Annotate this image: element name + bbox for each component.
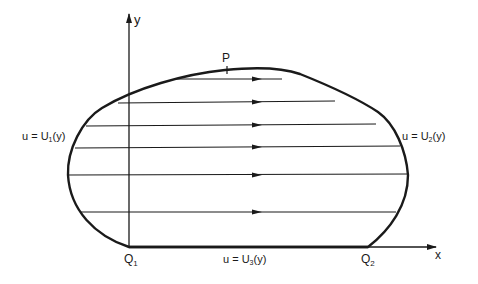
u3-prefix: u = U xyxy=(223,253,250,265)
arrow-right-icon xyxy=(252,123,262,128)
y-axis-label: y xyxy=(134,12,141,27)
flow-line xyxy=(68,174,408,175)
flow-domain-diagram: y x P Q1 Q2 u = U1(y) u = U2(y) u = U3(y… xyxy=(0,0,478,284)
arrow-right-icon xyxy=(252,145,262,150)
u2-prefix: u = U xyxy=(402,130,429,142)
arrow-right-icon xyxy=(252,173,262,178)
u3-suffix: (y) xyxy=(254,253,267,265)
q2-subscript: 2 xyxy=(370,259,375,268)
bottom-boundary-label: u = U3(y) xyxy=(223,253,266,266)
domain-boundary xyxy=(68,68,408,247)
arrow-right-icon xyxy=(252,77,262,82)
u1-prefix: u = U xyxy=(22,130,49,142)
u1-suffix: (y) xyxy=(53,130,66,142)
q1-subscript: 1 xyxy=(133,259,138,268)
left-boundary-label: u = U1(y) xyxy=(22,130,65,143)
point-q1-label: Q1 xyxy=(124,252,138,268)
flow-arrows xyxy=(252,77,262,215)
point-q2-label: Q2 xyxy=(361,252,375,268)
flow-line xyxy=(75,146,400,148)
flow-line xyxy=(118,101,335,103)
arrow-right-icon xyxy=(252,210,262,215)
x-axis-label: x xyxy=(435,248,441,262)
point-p-label: P xyxy=(222,51,230,65)
arrow-right-icon xyxy=(252,100,262,105)
q2-letter: Q xyxy=(361,252,370,266)
u2-suffix: (y) xyxy=(433,130,446,142)
right-boundary-label: u = U2(y) xyxy=(402,130,445,143)
q1-letter: Q xyxy=(124,252,133,266)
